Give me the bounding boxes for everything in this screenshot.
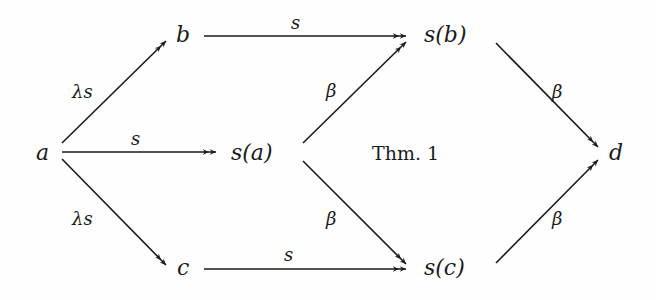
edge-label: s (284, 244, 293, 265)
node-b: b (176, 22, 190, 47)
commutative-diagram: λs s λs s β β s β β a b s(a) s(b) Thm. 1… (0, 0, 656, 300)
node-s-of-b: s(b) (424, 22, 467, 47)
edge-label: λs (71, 81, 93, 102)
edge-label: λs (71, 208, 93, 229)
edge-label: β (325, 80, 336, 101)
arrow-icon (303, 42, 406, 143)
edge-sa-to-sc: β (303, 161, 406, 264)
edge-label: s (291, 12, 300, 33)
edge-sb-to-d: β (496, 43, 598, 147)
diagram-svg: λs s λs s β β s β β a b s(a) s(b) Thm. 1… (0, 0, 656, 300)
edge-sa-to-sb: β (303, 42, 406, 143)
edge-a-to-sa: s (62, 128, 216, 152)
arrow-icon (303, 161, 406, 264)
edge-label: s (131, 128, 140, 149)
edge-sc-to-d: β (496, 160, 598, 263)
edge-label: β (551, 81, 562, 102)
node-d: d (609, 140, 623, 165)
edge-label: β (551, 208, 562, 229)
theorem-annotation: Thm. 1 (372, 142, 439, 164)
edge-c-to-sc: s (204, 244, 406, 269)
edge-label: β (325, 208, 336, 229)
arrow-icon (496, 43, 598, 147)
node-s-of-c: s(c) (424, 255, 465, 280)
edge-b-to-sb: s (204, 12, 406, 36)
edge-a-to-c: λs (62, 159, 166, 265)
node-c: c (177, 255, 189, 280)
node-a: a (36, 140, 49, 165)
edge-a-to-b: λs (62, 41, 166, 143)
arrow-icon (496, 160, 598, 263)
node-s-of-a: s(a) (231, 140, 273, 165)
